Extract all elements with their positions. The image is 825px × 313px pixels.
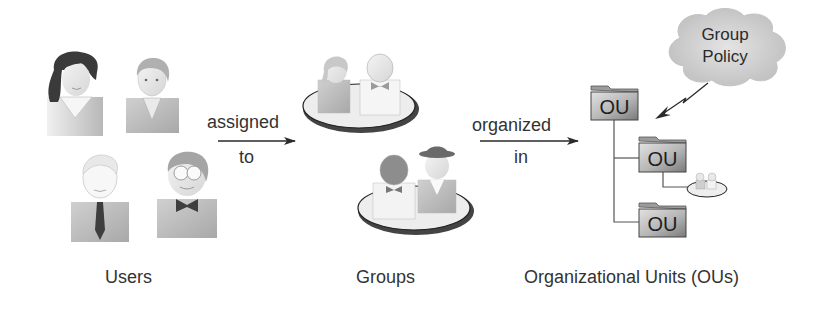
assigned-arrow-label-top: assigned [207, 113, 279, 131]
woman-long-hair-icon [47, 52, 103, 136]
small-group-icon [687, 173, 727, 197]
ou-folder-icon: OU [639, 137, 686, 172]
svg-text:OU: OU [648, 213, 678, 235]
svg-text:OU: OU [648, 148, 678, 170]
svg-text:Group: Group [701, 25, 748, 44]
ou-folder-icon: OU [639, 203, 686, 237]
svg-text:OU: OU [600, 96, 630, 118]
svg-text:Policy: Policy [702, 47, 748, 66]
group-2-icon [358, 147, 474, 236]
group-1-icon [303, 54, 419, 133]
users-caption: Users [105, 268, 152, 286]
ou-folder-icon: OU [591, 86, 638, 120]
man-with-bowtie-glasses-icon [157, 152, 217, 238]
policy-lightning-arrow-icon [655, 83, 708, 119]
ous-caption: Organizational Units (OUs) [524, 268, 739, 286]
organized-arrow-label-bottom: in [514, 148, 528, 166]
man-with-tie-icon [71, 155, 129, 242]
man-short-hair-icon [126, 58, 179, 133]
assigned-arrow-label-bottom: to [239, 148, 254, 166]
groups-caption: Groups [356, 268, 415, 286]
organized-arrow-label-top: organized [472, 116, 551, 134]
group-policy-cloud-icon: Group Policy [669, 9, 785, 86]
